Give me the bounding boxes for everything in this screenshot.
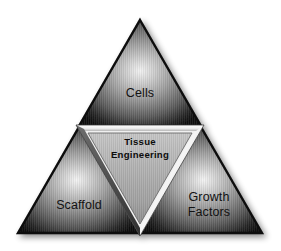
- triad-graphic: [0, 0, 281, 251]
- tissue-engineering-diagram: Cells Scaffold Growth Factors Tissue Eng…: [0, 0, 281, 251]
- node-top-cells[interactable]: [79, 20, 201, 126]
- triangle-group: [18, 20, 262, 236]
